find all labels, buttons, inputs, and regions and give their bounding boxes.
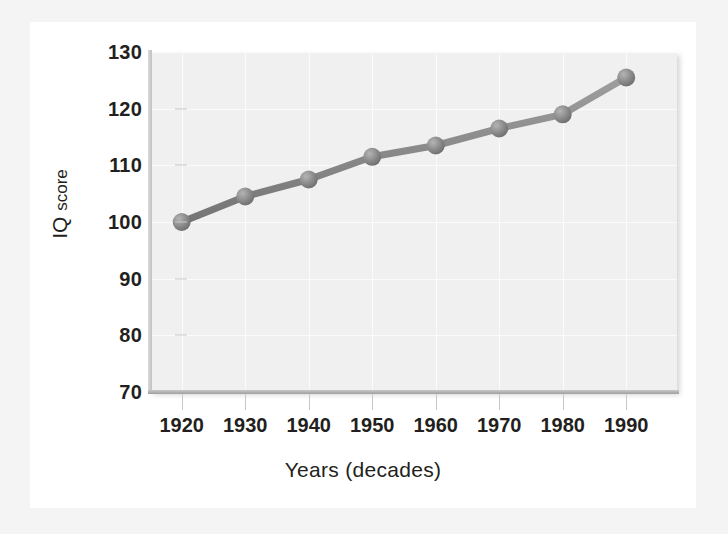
y-axis-tick-label: 80 — [119, 324, 142, 347]
x-axis-tick-label: 1970 — [477, 414, 522, 437]
x-axis-tick-label: 1960 — [413, 414, 458, 437]
x-axis-tick-label: 1980 — [540, 414, 585, 437]
x-axis-tick-mark — [372, 394, 373, 410]
y-axis-tick-label: 130 — [108, 41, 142, 64]
x-axis-tick-mark — [436, 394, 437, 410]
iq-score-line-chart: 708090100110120130 192019301940195019601… — [30, 22, 696, 508]
x-axis-tick-label: 1990 — [604, 414, 649, 437]
y-axis-tick-label: 90 — [119, 267, 142, 290]
x-axis-tick-label: 1950 — [350, 414, 395, 437]
x-axis-title: Years (decades) — [30, 458, 696, 482]
x-axis-tick-mark — [309, 394, 310, 410]
data-point-marker — [363, 148, 381, 166]
y-axis-title-main: IQ — [48, 217, 71, 239]
y-axis-tick-label: 100 — [108, 211, 142, 234]
y-axis-title: IQ score — [48, 134, 72, 274]
y-axis-tick-label: 120 — [108, 97, 142, 120]
data-point-marker — [300, 171, 318, 189]
x-axis-tick-mark — [563, 394, 564, 410]
y-axis-tick-mark — [175, 278, 187, 279]
figure-card: 708090100110120130 192019301940195019601… — [30, 22, 696, 508]
y-axis-tick-label: 70 — [119, 381, 142, 404]
x-axis-tick-label: 1940 — [286, 414, 331, 437]
data-point-marker — [236, 188, 254, 206]
figure-frame: 708090100110120130 192019301940195019601… — [0, 0, 728, 534]
x-axis-tick-labels: 19201930194019501960197019801990 — [30, 414, 696, 448]
y-axis-tick-label: 110 — [109, 154, 142, 177]
x-axis-tick-mark — [499, 394, 500, 410]
y-axis-tick-mark — [175, 108, 187, 109]
data-point-marker — [554, 105, 572, 123]
y-axis-title-sub: score — [52, 169, 71, 211]
x-axis-tick-mark — [626, 394, 627, 410]
y-axis-tick-mark — [175, 165, 187, 166]
data-point-marker — [490, 120, 508, 138]
data-point-marker — [427, 137, 445, 155]
y-axis-tick-mark — [175, 222, 187, 223]
x-axis-tick-mark — [182, 394, 183, 410]
x-axis-tick-mark — [245, 394, 246, 410]
y-axis-tick-mark — [175, 335, 187, 336]
data-point-marker — [617, 69, 635, 87]
x-axis-tick-label: 1930 — [223, 414, 268, 437]
data-series-iq-score — [150, 52, 677, 392]
x-axis-tick-label: 1920 — [159, 414, 204, 437]
